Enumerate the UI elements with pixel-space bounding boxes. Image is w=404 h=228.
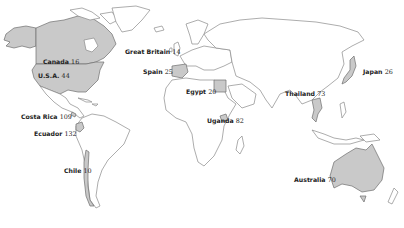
new-guinea-shape: [360, 134, 380, 142]
label-thailand: Thailand 73: [285, 91, 325, 97]
thailand-shape: [312, 98, 322, 122]
europe-shape: [180, 46, 232, 70]
label-chile: Chile 10: [64, 168, 92, 174]
label-spain: Spain 25: [143, 69, 173, 75]
spain-shape: [172, 64, 188, 78]
label-japan: Japan 26: [363, 69, 393, 75]
label-australia: Australia 70: [294, 177, 336, 183]
label-ecuador: Ecuador 132: [34, 131, 77, 137]
label-great-britain: Great Britain 14: [125, 49, 180, 55]
iceland-shape: [154, 26, 164, 32]
new-zealand-shape: [388, 188, 398, 204]
tasmania-shape: [360, 196, 366, 202]
philippines-shape: [340, 102, 346, 118]
label-egypt: Egypt 20: [186, 89, 216, 95]
alaska-shape: [4, 26, 36, 48]
caribbean-shape: [78, 98, 98, 106]
australia-shape: [330, 144, 384, 192]
madagascar-shape: [236, 136, 244, 154]
indonesia-shape: [312, 130, 364, 144]
label-canada: Canada 16: [43, 59, 79, 65]
label-uganda: Uganda 82: [207, 118, 244, 124]
canada-shape: [36, 16, 116, 64]
scandinavia-shape: [186, 20, 208, 44]
japan-shape: [342, 56, 356, 84]
label-usa: U.S.A. 44: [38, 73, 70, 79]
greenland-shape: [112, 6, 150, 32]
label-costa-rica: Costa Rica 109: [21, 114, 72, 120]
